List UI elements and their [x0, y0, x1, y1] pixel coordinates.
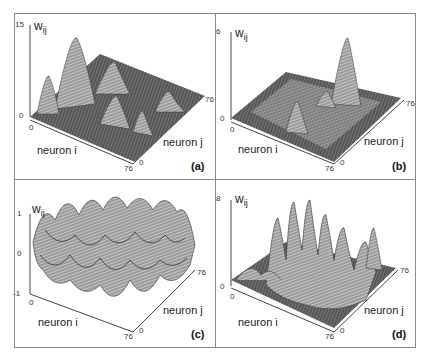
- y-tick-end: 76: [406, 99, 415, 108]
- panel-b: 6 0 0 76 0 76 wij neuron i neuron j (b): [216, 14, 416, 179]
- x-tick-start: 0: [29, 298, 33, 307]
- z-axis-label: wij: [34, 19, 47, 35]
- z-tick-bottom: 0: [19, 111, 23, 120]
- panel-a: 15 0 0 76 0 76 wij neuron i neuron j (a): [15, 14, 215, 179]
- z-tick-top: 8: [216, 194, 220, 203]
- y-axis-label: neuron j: [364, 304, 404, 316]
- panel-label: (a): [191, 160, 204, 172]
- z-axis-label: wij: [32, 202, 45, 218]
- x-tick-end: 76: [124, 332, 133, 341]
- panel-c: 1 0 -1 0 76 0 76 wij neuron i neuron j (…: [15, 180, 215, 345]
- x-axis-label: neuron i: [238, 316, 278, 328]
- panel-label: (c): [191, 328, 204, 340]
- y-axis-label: neuron j: [364, 135, 404, 147]
- z-tick-bottom: 0: [220, 114, 224, 123]
- x-tick-end: 76: [325, 164, 334, 173]
- x-axis-label: neuron i: [38, 316, 78, 328]
- x-axis-label: neuron i: [238, 143, 278, 155]
- z-axis-label: wij: [235, 26, 248, 42]
- y-tick-end: 76: [205, 95, 214, 104]
- y-axis-label: neuron j: [163, 304, 203, 316]
- z-axis-label: wij: [235, 192, 248, 208]
- x-axis-label: neuron i: [37, 144, 77, 156]
- panel-label: (b): [392, 160, 406, 172]
- y-tick-start: 0: [139, 326, 143, 335]
- y-tick-start: 0: [340, 326, 344, 335]
- y-tick-start: 0: [340, 158, 344, 167]
- z-tick-top: 1: [17, 209, 21, 218]
- x-tick-end: 76: [325, 332, 334, 341]
- x-tick-end: 76: [124, 164, 133, 173]
- z-tick-middle: 0: [17, 249, 21, 258]
- x-tick-start: 0: [29, 123, 33, 132]
- y-tick-end: 76: [197, 268, 206, 277]
- z-tick-top: 6: [216, 27, 220, 36]
- panel-d: 8 0 0 76 0 76 wij neuron i neuron j (d): [216, 180, 416, 345]
- panel-label: (d): [392, 328, 406, 340]
- z-tick-bottom: 0: [220, 282, 224, 291]
- y-tick-start: 0: [139, 158, 143, 167]
- z-tick-top: 15: [15, 20, 24, 29]
- y-axis-label: neuron j: [163, 136, 203, 148]
- y-tick-end: 76: [400, 266, 409, 275]
- z-tick-bottom: -1: [13, 289, 20, 298]
- x-tick-start: 0: [230, 125, 234, 134]
- x-tick-start: 0: [230, 292, 234, 301]
